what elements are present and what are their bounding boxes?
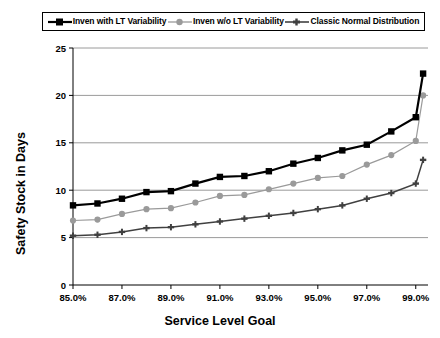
x-axis-title: Service Level Goal xyxy=(0,314,440,328)
data-point xyxy=(168,205,174,211)
x-tick-label-97: 97.0% xyxy=(353,292,380,303)
y-tick-label-0: 0 xyxy=(61,280,66,291)
x-tick-label-95: 95.0% xyxy=(304,292,331,303)
data-point xyxy=(364,162,370,168)
data-point xyxy=(217,174,223,180)
data-point xyxy=(420,92,426,98)
data-point xyxy=(119,211,125,217)
data-point xyxy=(339,147,345,153)
data-point xyxy=(168,188,174,194)
x-tick-label-85: 85.0% xyxy=(60,292,87,303)
series-line-1 xyxy=(73,95,423,220)
safety-stock-line-chart: Inven with LT Variability Inven w/o LT V… xyxy=(0,0,440,338)
y-tick-label-20: 20 xyxy=(55,90,66,101)
y-tick-label-10: 10 xyxy=(55,185,66,196)
x-tick-label-93: 93.0% xyxy=(255,292,282,303)
data-point xyxy=(364,141,370,147)
plot-area: 051015202585.0%87.0%89.0%91.0%93.0%95.0%… xyxy=(0,0,440,338)
data-point xyxy=(388,128,394,134)
data-point xyxy=(70,217,76,223)
data-point xyxy=(388,152,394,158)
data-point xyxy=(266,186,272,192)
data-point xyxy=(290,160,296,166)
y-tick-label-5: 5 xyxy=(61,232,67,243)
data-point xyxy=(413,114,419,120)
data-point xyxy=(241,192,247,198)
x-tick-label-87: 87.0% xyxy=(108,292,135,303)
series-0 xyxy=(70,70,427,208)
y-tick-label-15: 15 xyxy=(55,137,66,148)
data-point xyxy=(217,193,223,199)
series-1 xyxy=(70,92,426,223)
data-point xyxy=(315,175,321,181)
data-point xyxy=(94,200,100,206)
data-point xyxy=(143,189,149,195)
data-point xyxy=(413,138,419,144)
y-axis-title: Safety Stock in Days xyxy=(14,132,28,255)
data-point xyxy=(119,196,125,202)
data-point xyxy=(241,173,247,179)
data-point xyxy=(315,155,321,161)
series-line-0 xyxy=(73,74,423,206)
data-point xyxy=(70,202,76,208)
data-point xyxy=(290,180,296,186)
x-tick-label-89: 89.0% xyxy=(157,292,184,303)
y-tick-label-25: 25 xyxy=(55,43,66,54)
data-point xyxy=(266,168,272,174)
x-tick-label-99: 99.0% xyxy=(402,292,429,303)
data-point xyxy=(143,206,149,212)
data-point xyxy=(420,70,426,76)
data-point xyxy=(192,180,198,186)
x-tick-label-91: 91.0% xyxy=(206,292,233,303)
data-point xyxy=(192,199,198,205)
data-point xyxy=(94,216,100,222)
data-point xyxy=(339,173,345,179)
